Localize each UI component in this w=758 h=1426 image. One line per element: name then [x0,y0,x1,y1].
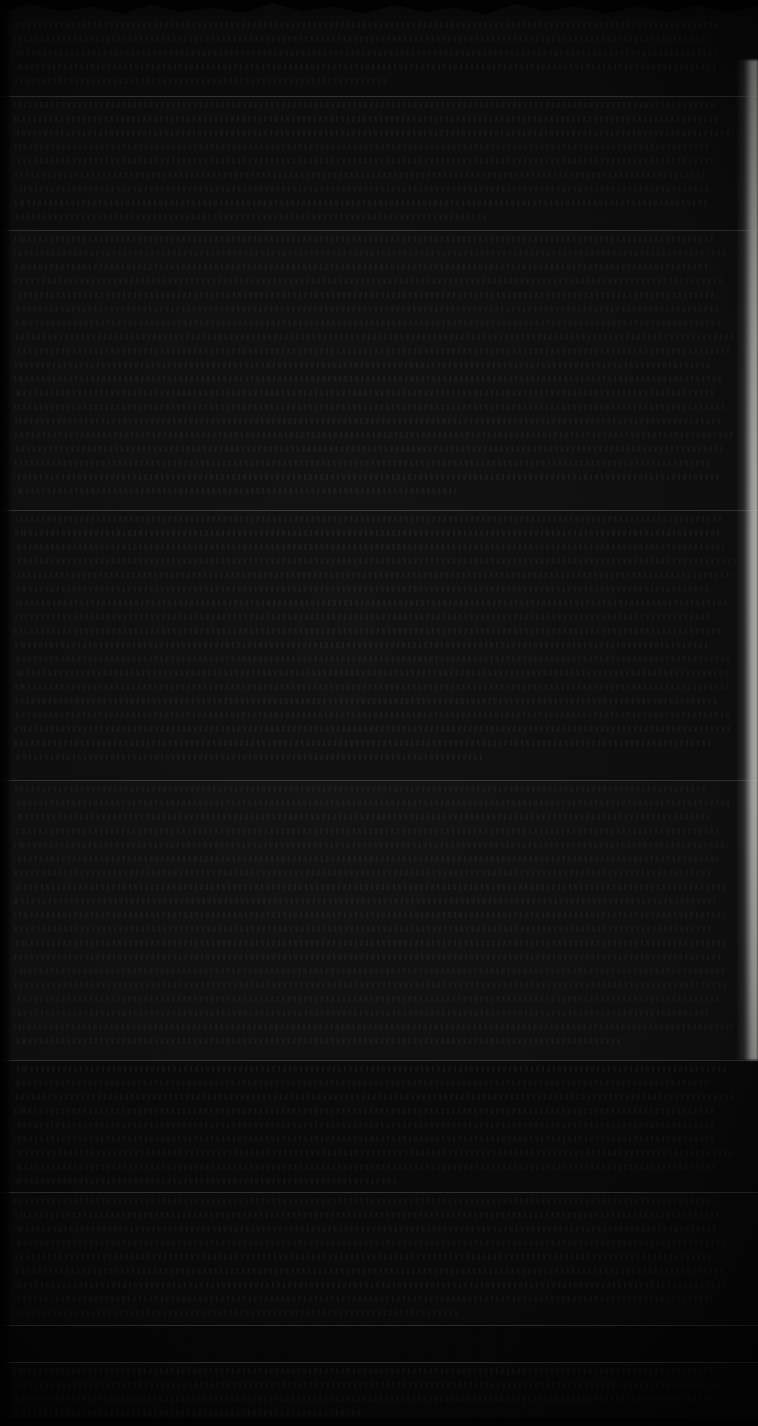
text-line [14,78,388,84]
text-line [14,214,487,220]
text-line [14,1268,725,1274]
text-line [14,926,714,932]
horizontal-rule-1 [0,230,758,231]
text-line [14,572,733,578]
text-line [14,628,723,634]
text-line [14,460,712,466]
text-line [14,474,718,480]
text-line [14,64,715,70]
text-line [14,530,721,536]
text-line [14,1094,733,1100]
text-line [14,432,735,438]
text-line [14,898,715,904]
text-line [14,712,730,718]
band-footer-dark [0,1326,758,1362]
text-line [14,250,729,256]
text-line [14,600,727,606]
text-line [14,954,720,960]
text-line [14,264,709,270]
text-line [14,856,718,862]
text-block-body-1 [14,236,736,502]
text-line [14,1108,716,1114]
text-line [14,670,727,676]
text-line [14,684,731,690]
scanned-document-page [0,0,758,1426]
text-line [14,740,714,746]
text-line [14,130,733,136]
text-block-body-3 [14,786,736,1052]
text-line [14,698,717,704]
text-block-body-2 [14,516,736,768]
text-line [14,362,712,368]
text-line [14,116,721,122]
text-line [14,50,717,56]
text-line [14,102,717,108]
horizontal-rule-4 [0,1060,758,1061]
text-line [14,186,711,192]
horizontal-rule-7 [0,1362,758,1363]
text-line [14,614,711,620]
text-line [14,1164,715,1170]
text-line [14,982,728,988]
text-line [14,144,711,150]
text-line [14,488,456,494]
text-line [14,172,707,178]
text-block-header [14,22,736,92]
horizontal-rule-3 [0,780,758,781]
text-line [14,1240,725,1246]
text-line [14,1150,732,1156]
text-line [14,278,724,284]
text-line [14,158,712,164]
horizontal-rule-0 [0,96,758,97]
text-line [14,726,732,732]
text-line [14,1038,620,1044]
text-line [14,516,722,522]
wavy-torn-top-edge [0,0,758,16]
text-line [14,236,716,242]
text-line [14,1024,733,1030]
dark-bottom-margin [0,1418,758,1426]
text-line [14,390,714,396]
text-line [14,786,707,792]
text-line [14,870,713,876]
text-line [14,968,727,974]
bright-torn-right-edge [736,60,758,1060]
horizontal-rule-2 [0,510,758,511]
text-line [14,1010,708,1016]
text-line [14,1368,716,1374]
text-line [14,36,707,42]
text-line [14,1178,397,1184]
text-line [14,800,729,806]
text-line [14,1066,726,1072]
text-line [14,376,724,382]
text-line [14,348,729,354]
text-line [14,544,724,550]
text-line [14,446,722,452]
text-line [14,996,719,1002]
text-block-footer [14,1368,736,1424]
text-line [14,1226,715,1232]
text-line [14,320,721,326]
text-line [14,912,724,918]
text-line [14,586,708,592]
text-block-upper-body [14,102,736,228]
text-line [14,1310,458,1316]
text-line [14,884,727,890]
text-line [14,1282,727,1288]
text-line [14,292,718,298]
text-line [14,1212,721,1218]
text-line [14,656,730,662]
text-line [14,642,709,648]
text-line [14,558,735,564]
text-line [14,1296,712,1302]
text-line [14,1136,713,1142]
text-line [14,1122,713,1128]
text-line [14,306,719,312]
text-line [14,418,722,424]
text-line [14,828,719,834]
text-block-lower-2 [14,1198,736,1324]
text-line [14,1396,719,1402]
text-line [14,1080,709,1086]
text-line [14,1382,721,1388]
text-line [14,814,709,820]
